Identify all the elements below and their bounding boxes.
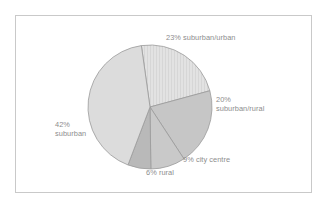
pie-label-rural: 6% rural [146, 168, 174, 177]
pie-chart-canvas [0, 0, 330, 212]
pie-slices-group [88, 45, 212, 169]
pie-label-suburban: 42% suburban [55, 120, 86, 138]
pie-label-city-centre: 9% city centre [183, 155, 230, 164]
pie-label-suburban-rural: 20% suburban/rural [216, 95, 264, 113]
pie-label-suburban-urban: 23% suburban/urban [166, 33, 236, 42]
pie-chart-figure: 23% suburban/urban 20% suburban/rural 9%… [0, 0, 330, 212]
